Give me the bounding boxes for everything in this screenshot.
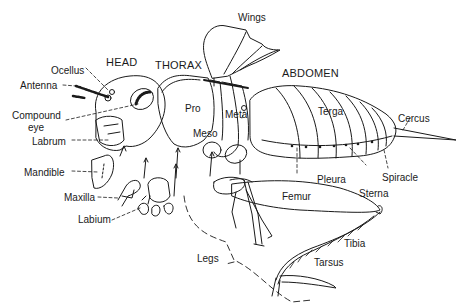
label-pleura: Pleura	[317, 174, 346, 185]
label-wings: Wings	[238, 12, 266, 23]
wings-drawing	[204, 25, 280, 86]
section-label-head: HEAD	[106, 57, 137, 68]
label-meta: Meta	[225, 109, 247, 120]
label-spiracle: Spiracle	[382, 172, 418, 183]
label-terga: Terga	[318, 106, 343, 117]
label-ocellus: Ocellus	[51, 65, 84, 76]
label-mandible: Mandible	[24, 167, 65, 178]
legs-bracket	[184, 196, 312, 302]
label-sterna: Sterna	[359, 188, 388, 199]
label-femur: Femur	[282, 191, 311, 202]
maxilla-drawing	[118, 180, 140, 206]
label-tarsus: Tarsus	[314, 257, 343, 268]
insect-drawing	[0, 0, 469, 307]
label-compound-eye-line1: Compound	[12, 110, 61, 121]
label-antenna: Antenna	[20, 80, 57, 91]
labium-drawing	[138, 178, 173, 216]
spiracle-dots	[291, 141, 374, 149]
label-maxilla: Maxilla	[64, 192, 95, 203]
label-meso: Meso	[193, 128, 217, 139]
label-tibia: Tibia	[344, 238, 365, 249]
label-labium: Labium	[78, 214, 111, 225]
label-legs: Legs	[197, 253, 219, 264]
label-labrum: Labrum	[32, 136, 66, 147]
label-cercus: Cercus	[398, 113, 430, 124]
label-compound-eye-line2: eye	[28, 122, 44, 133]
section-label-abdomen: ABDOMEN	[282, 68, 339, 79]
insect-anatomy-diagram: HEAD THORAX ABDOMEN Wings Ocellus Antenn…	[0, 0, 469, 307]
section-label-thorax: THORAX	[155, 60, 202, 71]
thorax-drawing	[158, 75, 249, 178]
head-capsule	[73, 76, 165, 151]
label-pro: Pro	[185, 103, 201, 114]
